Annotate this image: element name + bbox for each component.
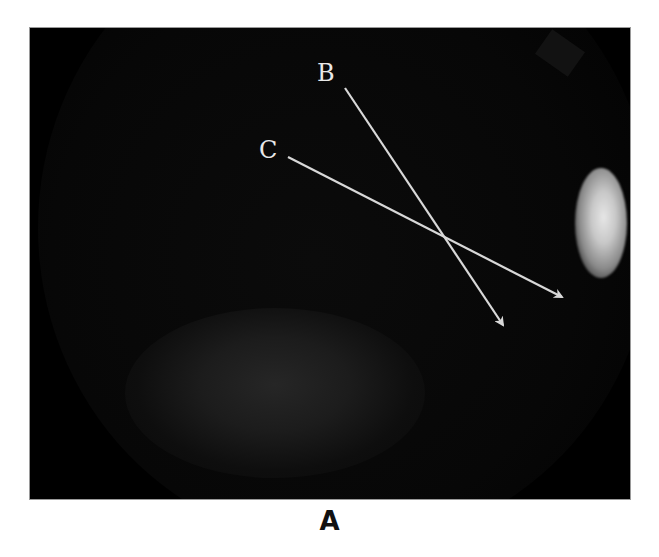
annotation-label-b: B: [317, 61, 335, 85]
arrow-c: [288, 157, 562, 297]
annotation-label-c: C: [259, 138, 277, 162]
panel-label: A: [0, 506, 659, 536]
arrow-b: [345, 88, 503, 325]
